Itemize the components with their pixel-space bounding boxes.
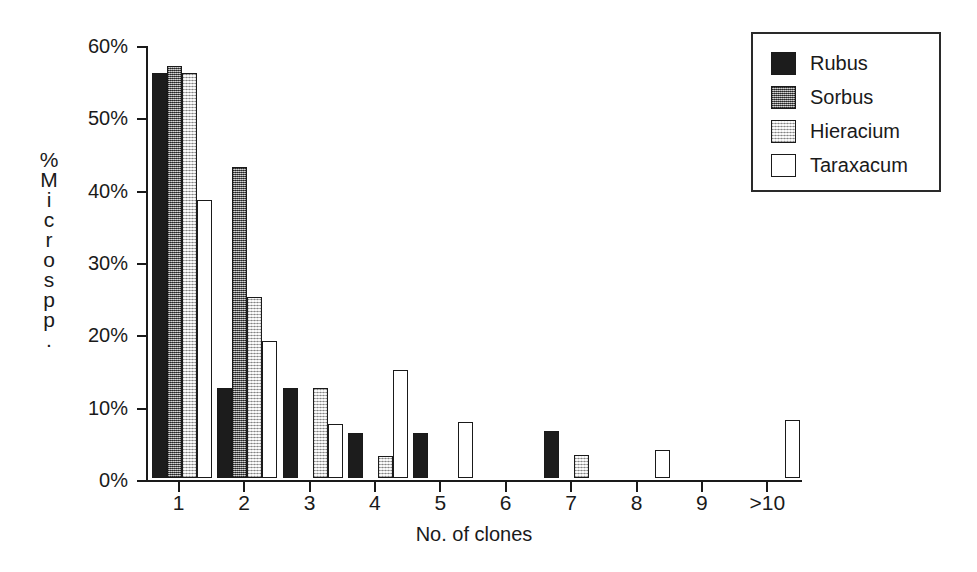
bar-taraxacum-2 [262, 341, 277, 478]
x-axis-tick-label: 4 [369, 492, 381, 514]
x-axis-tick-label: 1 [173, 492, 185, 514]
y-axis-title-char: s [36, 270, 62, 290]
y-axis-tick-label: 30% [64, 253, 128, 273]
y-axis-tick-label: 60% [64, 36, 128, 56]
bar-hieracium-2 [247, 297, 262, 478]
x-axis-tick-label: 3 [304, 492, 316, 514]
y-axis-tick-mark [137, 263, 146, 265]
y-axis-title-char: p [36, 310, 62, 330]
bar-sorbus-2 [232, 167, 247, 478]
legend-item-hieracium: Hieracium [771, 114, 939, 148]
y-axis-tick-label: 0% [64, 470, 128, 490]
x-axis-tick-label: 8 [631, 492, 643, 514]
legend-label: Taraxacum [810, 155, 908, 175]
y-axis-title-char: o [36, 250, 62, 270]
bar-hieracium-1 [182, 73, 197, 478]
y-axis-tick-label: 10% [64, 398, 128, 418]
legend-item-rubus: Rubus [771, 46, 939, 80]
y-axis-tick-mark [137, 118, 146, 120]
bar-taraxacum-4 [393, 370, 408, 479]
y-axis-title-char: r [36, 230, 62, 250]
y-axis-title-char: c [36, 210, 62, 230]
legend-item-sorbus: Sorbus [771, 80, 939, 114]
bar-sorbus-1 [167, 66, 182, 478]
bar-taraxacum-5 [458, 422, 473, 478]
y-axis-title-char: % [36, 150, 62, 170]
bar-taraxacum->10 [785, 420, 800, 478]
y-axis-tick-labels: 0%10%20%30%40%50%60% [64, 0, 128, 572]
bar-rubus-2 [217, 388, 232, 478]
y-axis-tick-label: 20% [64, 325, 128, 345]
bar-rubus-1 [152, 73, 167, 478]
x-axis-tick-label: 9 [696, 492, 708, 514]
x-axis-tick-label: >10 [749, 492, 785, 514]
y-axis-line [146, 46, 148, 482]
y-axis-tick-mark [137, 191, 146, 193]
bar-rubus-7 [544, 431, 559, 478]
x-axis-tick-label: 2 [238, 492, 250, 514]
legend-label: Sorbus [810, 87, 873, 107]
y-axis-tick-mark [137, 408, 146, 410]
y-axis-tick-mark [137, 46, 146, 48]
legend-swatch-hieracium [771, 120, 796, 143]
legend-label: Hieracium [810, 121, 900, 141]
bar-chart: %Microspp. 0%10%20%30%40%50%60% No. of c… [0, 0, 977, 572]
y-axis-tick-mark [137, 480, 146, 482]
chart-legend: RubusSorbusHieraciumTaraxacum [751, 32, 941, 192]
x-axis-tick-label: 5 [434, 492, 446, 514]
bar-taraxacum-8 [655, 450, 670, 478]
y-axis-title-char: i [36, 190, 62, 210]
plot-area [146, 46, 800, 480]
y-axis-title: %Microspp. [36, 150, 62, 350]
y-axis-tick-mark [137, 335, 146, 337]
bar-hieracium-4 [378, 456, 393, 478]
legend-swatch-sorbus [771, 86, 796, 109]
x-axis-tick-label: 7 [565, 492, 577, 514]
y-axis-tick-label: 50% [64, 108, 128, 128]
legend-swatch-taraxacum [771, 154, 796, 177]
bar-rubus-3 [283, 388, 298, 478]
bar-taraxacum-3 [328, 424, 343, 478]
y-axis-title-char: . [36, 330, 62, 350]
bar-hieracium-7 [574, 455, 589, 478]
bar-rubus-4 [348, 433, 363, 478]
x-axis-tick-label: 6 [500, 492, 512, 514]
legend-item-taraxacum: Taraxacum [771, 148, 939, 182]
y-axis-tick-label: 40% [64, 181, 128, 201]
y-axis-title-char: M [36, 170, 62, 190]
bar-hieracium-3 [313, 388, 328, 478]
x-axis-title: No. of clones [146, 523, 802, 546]
bar-rubus-5 [413, 433, 428, 478]
y-axis-title-char: p [36, 290, 62, 310]
bar-taraxacum-1 [197, 200, 212, 478]
legend-label: Rubus [810, 53, 868, 73]
legend-swatch-rubus [771, 52, 796, 75]
